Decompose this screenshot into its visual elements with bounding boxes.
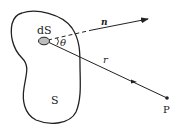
normal-dashed-line bbox=[48, 30, 92, 40]
label-theta: θ bbox=[60, 37, 66, 48]
surface-diagram: dS θ n r S P bbox=[0, 0, 182, 130]
label-point-p: P bbox=[163, 104, 170, 115]
surface-element-ellipse bbox=[39, 37, 50, 45]
label-dS: dS bbox=[37, 24, 52, 37]
point-p-dot bbox=[165, 96, 169, 100]
label-normal: n bbox=[101, 17, 108, 27]
angle-arc bbox=[57, 38, 59, 45]
distance-line bbox=[48, 42, 167, 98]
label-surface: S bbox=[51, 94, 59, 107]
label-r: r bbox=[103, 54, 109, 65]
